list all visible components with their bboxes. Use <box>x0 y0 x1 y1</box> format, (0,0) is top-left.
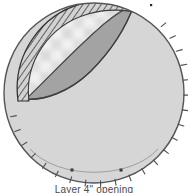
perimeter-tick <box>172 138 177 141</box>
perimeter-tick <box>176 50 182 52</box>
perimeter-tick <box>182 110 188 111</box>
figure-caption: Layer 4" opening <box>0 184 188 193</box>
perimeter-tick <box>170 36 176 39</box>
perimeter-tick <box>164 150 169 154</box>
perimeter-tick <box>181 64 187 65</box>
perimeter-tick <box>154 160 158 165</box>
perimeter-tick <box>161 23 166 27</box>
specimen-disc <box>0 0 188 193</box>
perimeter-tick <box>184 80 189 81</box>
perimeter-tick <box>142 169 145 174</box>
reference-marker <box>150 4 152 6</box>
specimen-figure <box>0 0 188 193</box>
perimeter-tick <box>178 124 184 126</box>
rim-band-cap-upper <box>148 4 150 15</box>
figure-root: Layer 4" opening <box>0 0 188 193</box>
